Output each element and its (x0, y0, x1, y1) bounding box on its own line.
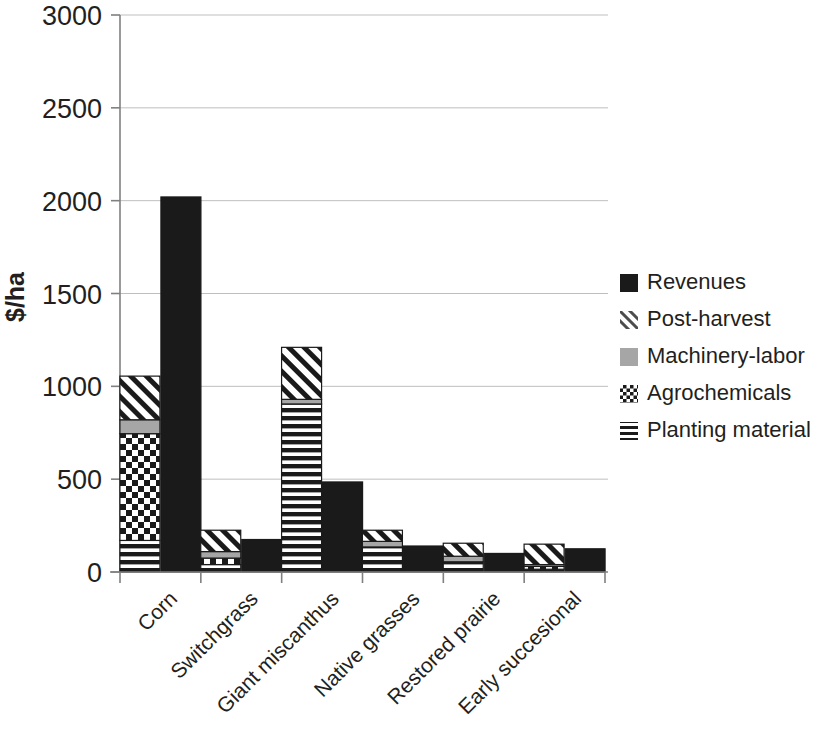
y-tick-label: 2500 (42, 94, 102, 124)
bar-group (120, 197, 201, 572)
bar-chart: 050010001500200025003000 CornSwitchgrass… (0, 0, 824, 737)
bar-segment (201, 552, 241, 558)
bar-group (524, 544, 605, 572)
bar-segment (362, 541, 402, 547)
bar-segment (120, 420, 160, 434)
y-tick-label: 1000 (42, 372, 102, 402)
bar-group (443, 543, 524, 572)
legend-item[interactable]: Planting material (620, 417, 811, 442)
legend-swatch-solid-gray-icon (620, 348, 638, 366)
bar-revenue (323, 482, 363, 572)
bars-layer (120, 197, 605, 572)
bar-segment (524, 544, 564, 564)
bar-revenue (403, 546, 443, 572)
legend-item-label: Agrochemicals (647, 380, 791, 405)
legend-item-label: Revenues (647, 269, 746, 294)
y-tick-label: 500 (57, 465, 102, 495)
bar-segment (282, 399, 322, 404)
legend-item[interactable]: Agrochemicals (620, 380, 791, 405)
bar-segment (443, 543, 483, 556)
legend-item[interactable]: Machinery-labor (620, 343, 805, 368)
bar-segment (282, 347, 322, 399)
legend: RevenuesPost-harvestMachinery-laborAgroc… (620, 269, 811, 442)
x-axis (110, 572, 608, 583)
y-axis-title: $/ha (1, 271, 29, 322)
y-tick-label: 3000 (42, 1, 102, 31)
y-tick-label: 0 (87, 558, 102, 588)
y-tick-label: 2000 (42, 187, 102, 217)
bar-group (201, 530, 282, 572)
legend-item[interactable]: Revenues (620, 269, 746, 294)
legend-item-label: Machinery-labor (647, 343, 805, 368)
legend-swatch-checker-icon (620, 385, 638, 403)
x-category-labels: CornSwitchgrassGiant miscanthusNative gr… (133, 587, 586, 719)
bar-segment (120, 540, 160, 572)
bar-revenue (161, 197, 201, 572)
y-axis (111, 15, 120, 572)
y-tick-labels: 050010001500200025003000 (42, 1, 102, 588)
bar-segment (201, 558, 241, 564)
bar-segment (443, 562, 483, 572)
chart-root: 050010001500200025003000 CornSwitchgrass… (0, 0, 824, 737)
legend-item[interactable]: Post-harvest (620, 306, 771, 331)
bar-segment (120, 434, 160, 541)
legend-item-label: Post-harvest (647, 306, 771, 331)
y-tick-label: 1500 (42, 280, 102, 310)
bar-segment (201, 565, 241, 572)
bar-segment (362, 547, 402, 572)
legend-swatch-diagonal-hatch-icon (620, 311, 638, 329)
bar-segment (362, 530, 402, 541)
bar-revenue (242, 540, 282, 572)
bar-revenue (565, 549, 605, 572)
bar-segment (282, 404, 322, 572)
legend-swatch-solid-black-icon (620, 274, 638, 292)
bar-segment (443, 556, 483, 562)
bar-group (282, 347, 363, 572)
legend-swatch-horizontal-lines-icon (620, 422, 638, 440)
bar-segment (120, 376, 160, 420)
bar-group (362, 530, 443, 572)
x-category-label: Corn (133, 587, 181, 635)
legend-item-label: Planting material (647, 417, 811, 442)
bar-segment (201, 530, 241, 551)
bar-revenue (484, 553, 524, 572)
